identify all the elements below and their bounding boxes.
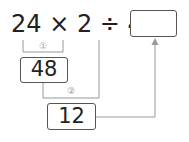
arrow-head-icon: [152, 38, 159, 45]
step-1-result-box: 48: [20, 57, 68, 83]
step-2-marker: ②: [67, 86, 75, 96]
arrow-line: [96, 42, 155, 117]
step-1-marker: ①: [39, 41, 47, 51]
step-2-result-box: 12: [47, 103, 96, 130]
